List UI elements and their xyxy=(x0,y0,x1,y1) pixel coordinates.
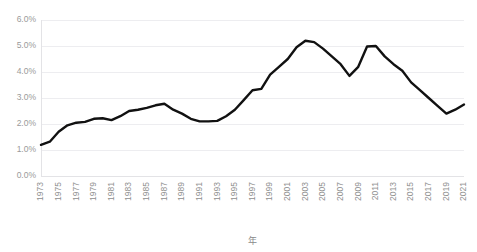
x-axis-tick-label: 2017 xyxy=(423,182,433,201)
y-axis-tick-label: 3.0% xyxy=(17,92,37,102)
chart-container: 0.0%1.0%2.0%3.0%4.0%5.0%6.0% 19731975197… xyxy=(0,0,477,252)
x-axis-tick-label: 1979 xyxy=(88,182,98,201)
x-axis-tick-label: 1983 xyxy=(123,182,133,201)
series-line xyxy=(41,41,464,145)
x-axis-tick-label: 1991 xyxy=(194,182,204,201)
x-axis-tick-label: 2005 xyxy=(317,182,327,201)
x-axis-tick-label: 2013 xyxy=(388,182,398,201)
x-axis-tick-label: 2007 xyxy=(335,182,345,201)
y-axis-tick-label: 0.0% xyxy=(17,170,37,180)
x-axis-tick-label: 1977 xyxy=(71,182,81,201)
x-axis-tick-label: 1987 xyxy=(159,182,169,201)
x-axis-tick-label: 2015 xyxy=(405,182,415,201)
line-chart-plot: 0.0%1.0%2.0%3.0%4.0%5.0%6.0% 19731975197… xyxy=(0,0,477,252)
x-axis-tick-label: 2001 xyxy=(282,182,292,201)
x-axis-tick-label: 1985 xyxy=(141,182,151,201)
x-axis-title: 年 xyxy=(248,235,257,246)
y-axis-tick-label: 5.0% xyxy=(17,40,37,50)
x-axis-tick-label: 1997 xyxy=(247,182,257,201)
x-axis-tick-label: 1999 xyxy=(264,182,274,201)
x-axis-tick-label: 1981 xyxy=(106,182,116,201)
x-axis-tick-label: 2003 xyxy=(300,182,310,201)
x-axis-tick-label: 1975 xyxy=(53,182,63,201)
gridlines xyxy=(41,20,464,177)
y-axis-tick-labels: 0.0%1.0%2.0%3.0%4.0%5.0%6.0% xyxy=(17,14,37,180)
x-axis-tick-label: 2021 xyxy=(458,182,468,201)
x-axis-tick-label: 1993 xyxy=(212,182,222,201)
x-axis-tick-label: 2009 xyxy=(353,182,363,201)
y-axis-tick-label: 4.0% xyxy=(17,66,37,76)
x-axis-tick-label: 2011 xyxy=(370,182,380,201)
y-axis-tick-label: 6.0% xyxy=(17,14,37,24)
x-axis-tick-label: 1973 xyxy=(35,182,45,201)
x-axis-tick-label: 2019 xyxy=(441,182,451,201)
data-series-group xyxy=(41,41,464,145)
x-axis-tick-labels: 1973197519771979198119831985198719891991… xyxy=(35,182,468,201)
y-axis-tick-label: 2.0% xyxy=(17,118,37,128)
x-axis-tick-label: 1989 xyxy=(176,182,186,201)
x-axis-tick-label: 1995 xyxy=(229,182,239,201)
y-axis-tick-label: 1.0% xyxy=(17,144,37,154)
